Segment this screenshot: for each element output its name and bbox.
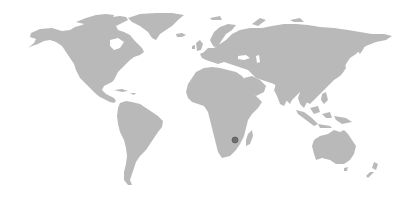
madagascar — [246, 130, 253, 146]
iceland — [176, 33, 186, 37]
southeast-asia — [298, 92, 308, 108]
world-map — [0, 0, 416, 197]
location-marker[interactable] — [232, 137, 238, 143]
north-america — [28, 16, 144, 103]
australia — [312, 130, 356, 164]
caribbean — [114, 89, 136, 95]
british-isles — [192, 40, 203, 51]
continents — [28, 13, 392, 185]
south-america — [117, 101, 163, 185]
tasmania — [344, 167, 348, 171]
philippines — [321, 92, 328, 104]
new-zealand — [366, 162, 378, 178]
greenland — [128, 13, 184, 40]
world-map-svg — [0, 0, 416, 197]
indonesia — [296, 106, 352, 128]
